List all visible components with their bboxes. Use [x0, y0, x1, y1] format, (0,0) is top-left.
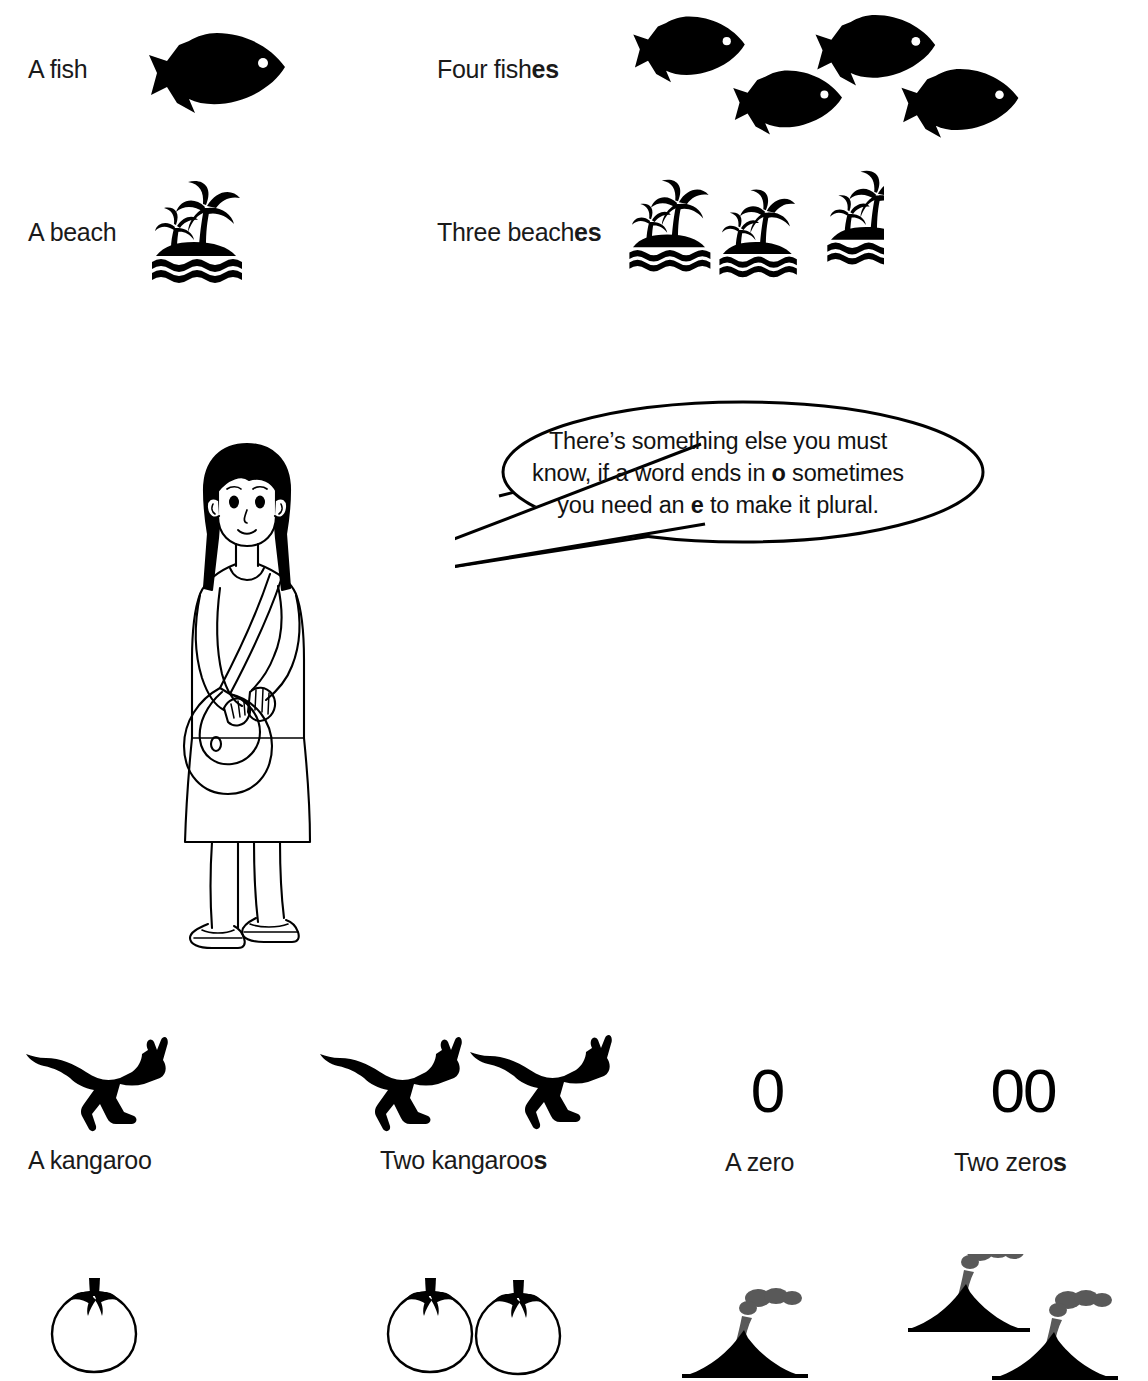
kangaroo-icon — [24, 1028, 174, 1132]
kangaroo-singular-icon-group — [24, 1028, 174, 1132]
tomato-singular-icon-group — [44, 1272, 144, 1381]
zero-digit-glyph: 0 — [738, 1060, 798, 1122]
fish-plural-icon-group — [626, 6, 1086, 146]
kangaroo-group-icon — [318, 1028, 618, 1132]
fish-singular-label: A fish — [28, 55, 87, 84]
fish-group-icon — [626, 6, 1086, 146]
tomato-icon — [44, 1272, 144, 1381]
beach-plural-icon-group — [624, 168, 884, 290]
girl-with-shoulder-bag-icon — [150, 438, 360, 958]
beach-plural-label: Three beaches — [437, 218, 601, 247]
zero-singular-label: A zero — [725, 1148, 794, 1177]
fish-singular-icon-group — [145, 25, 295, 117]
fish-icon — [145, 25, 295, 117]
volcano-group-icon — [908, 1254, 1138, 1381]
zero-plural-label: Two zeros — [954, 1148, 1067, 1177]
zero-digit-glyph-pair: 00 — [975, 1060, 1071, 1122]
kangaroo-plural-label: Two kangaroos — [380, 1146, 547, 1175]
beach-singular-label: A beach — [28, 218, 116, 247]
tomato-group-icon — [380, 1272, 580, 1381]
kangaroo-singular-label: A kangaroo — [28, 1146, 152, 1175]
tomato-plural-icon-group — [380, 1272, 580, 1381]
kangaroo-plural-icon-group — [318, 1028, 618, 1132]
volcano-icon — [682, 1278, 842, 1381]
zero-plural-icon-group: 00 — [975, 1060, 1071, 1126]
volcano-plural-icon-group — [908, 1254, 1138, 1381]
speech-bubble-text: There’s something else you must know, if… — [492, 425, 944, 521]
zero-singular-icon-group: 0 — [738, 1060, 798, 1126]
beach-group-icon — [624, 168, 884, 290]
beach-singular-icon-group — [146, 176, 246, 286]
bubble-line-1: There’s something else you must — [492, 425, 944, 457]
bubble-line-2: know, if a word ends in o sometimes — [492, 457, 944, 489]
worksheet-page: A fish Four fishes — [0, 0, 1148, 1381]
beach-island-icon — [146, 176, 246, 286]
fish-plural-label: Four fishes — [437, 55, 559, 84]
volcano-singular-icon-group — [682, 1278, 842, 1381]
girl-character — [150, 438, 360, 958]
bubble-line-3: you need an e to make it plural. — [492, 489, 944, 521]
